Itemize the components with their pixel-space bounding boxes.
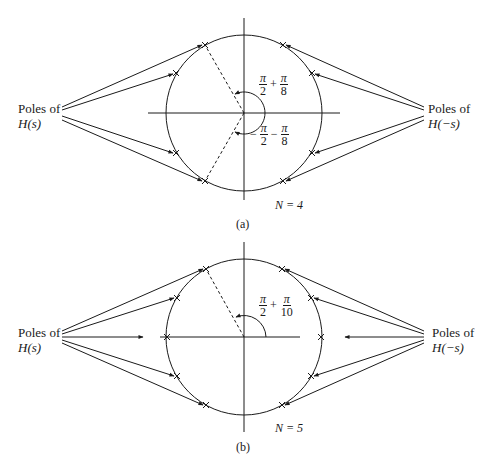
caption-b: (b) bbox=[236, 440, 250, 455]
left-label-b: Poles of H(s) bbox=[18, 325, 60, 355]
order-label-b: N = 5 bbox=[275, 421, 303, 436]
angle-label-lower-a: − π2 − π8 bbox=[250, 122, 289, 147]
panel-b bbox=[62, 242, 424, 432]
right-label-a: Poles of H(−s) bbox=[428, 101, 470, 131]
dashed-radius-upper bbox=[206, 269, 244, 337]
left-label-a: Poles of H(s) bbox=[18, 101, 60, 131]
panel-a bbox=[62, 18, 424, 200]
pole-diagrams bbox=[0, 0, 485, 466]
angle-label-upper-a: π2 + π8 bbox=[259, 72, 288, 97]
dashed-radius-upper bbox=[205, 45, 244, 113]
angle-label-upper-b: π2 + π10 bbox=[259, 293, 294, 318]
dashed-radius-lower bbox=[205, 113, 244, 181]
right-label-b: Poles of H(−s) bbox=[432, 325, 474, 355]
caption-a: (a) bbox=[236, 217, 249, 232]
order-label-a: N = 4 bbox=[275, 198, 303, 213]
